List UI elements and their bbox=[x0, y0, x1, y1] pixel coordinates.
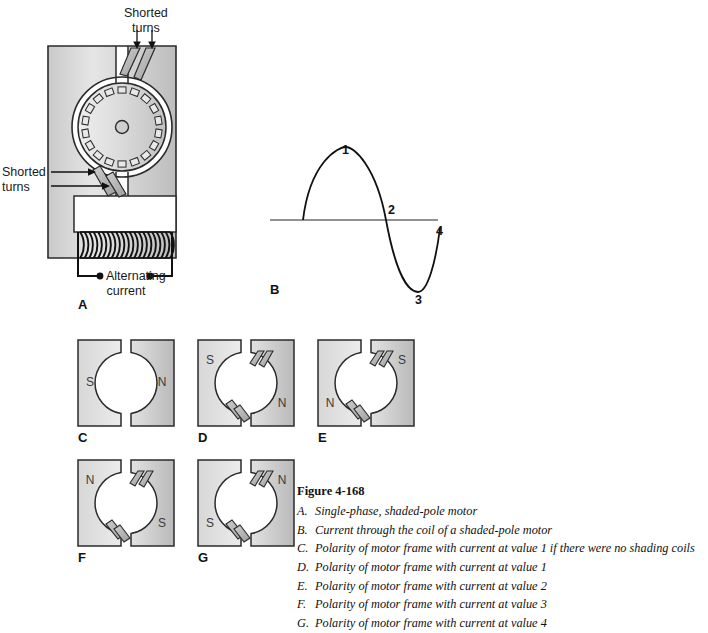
right-pole-label: N bbox=[278, 473, 287, 487]
caption-item-key: D. bbox=[297, 558, 310, 577]
frame-slot-2: NS bbox=[312, 336, 424, 440]
waveform-marker-4: 4 bbox=[436, 224, 443, 238]
figure-caption-list: A.Single-phase, shaded-pole motorB.Curre… bbox=[297, 502, 703, 633]
rotor-bar bbox=[82, 129, 89, 138]
caption-item: B.Current through the coil of a shaded-p… bbox=[297, 521, 703, 540]
caption-item-text: Polarity of motor frame with current at … bbox=[315, 558, 547, 577]
caption-item-key: A. bbox=[297, 502, 310, 521]
label-alternating-current-line2: current bbox=[106, 284, 146, 299]
caption-item-key: C. bbox=[297, 539, 310, 558]
caption-item: C.Polarity of motor frame with current a… bbox=[297, 539, 703, 558]
frame-slot-1: SN bbox=[192, 336, 304, 440]
rotor-bar bbox=[155, 129, 162, 138]
panel-letter-c: C bbox=[78, 430, 87, 445]
label-shorted-turns-top-line2: turns bbox=[124, 21, 168, 36]
coil-window bbox=[74, 196, 176, 232]
caption-item-text: Polarity of motor frame with current at … bbox=[315, 539, 695, 558]
label-alternating-current: Alternating current bbox=[106, 269, 146, 299]
waveform-marker-3: 3 bbox=[415, 293, 422, 307]
panel-letter-g: G bbox=[198, 550, 208, 565]
label-shorted-turns-top: Shorted turns bbox=[124, 6, 168, 36]
rotor-shaft bbox=[116, 121, 129, 134]
caption-item: D.Polarity of motor frame with current a… bbox=[297, 558, 703, 577]
waveform-marker-2: 2 bbox=[388, 203, 395, 217]
caption-item-text: Single-phase, shaded-pole motor bbox=[315, 502, 477, 521]
polarity-frame-drawing: NS bbox=[72, 456, 184, 560]
figure-caption-title: Figure 4-168 bbox=[297, 484, 703, 499]
figure-caption: Figure 4-168 A.Single-phase, shaded-pole… bbox=[297, 484, 703, 633]
caption-item-text: Current through the coil of a shaded-pol… bbox=[315, 521, 552, 540]
panel-a-motor: Shorted turns Shorted turns Alternating … bbox=[0, 0, 260, 320]
left-pole-label: S bbox=[86, 375, 94, 389]
rotor-bar bbox=[118, 87, 126, 93]
rotor-bar bbox=[155, 116, 162, 125]
right-pole-label: N bbox=[158, 375, 167, 389]
frame-panel-e: NS E bbox=[312, 336, 424, 440]
panel-letter-b: B bbox=[270, 282, 279, 297]
caption-item-key: E. bbox=[297, 577, 310, 596]
right-pole-label: S bbox=[398, 353, 406, 367]
frame-panel-g: SN G bbox=[192, 456, 304, 560]
caption-item-text: Polarity of motor frame with current at … bbox=[315, 614, 547, 633]
polarity-frame-drawing: SN bbox=[192, 456, 304, 560]
panel-letter-e: E bbox=[318, 430, 327, 445]
frame-slot-3: NS bbox=[72, 456, 184, 560]
rotor-bar bbox=[82, 116, 89, 125]
panel-letter-f: F bbox=[78, 550, 86, 565]
supply-terminal-left bbox=[97, 273, 104, 280]
left-pole-label: N bbox=[86, 473, 95, 487]
panel-b-drawing bbox=[258, 130, 468, 305]
left-pole-label: N bbox=[326, 396, 335, 410]
caption-item-key: B. bbox=[297, 521, 310, 540]
left-pole-label: S bbox=[206, 353, 214, 367]
caption-item: A.Single-phase, shaded-pole motor bbox=[297, 502, 703, 521]
caption-item: E.Polarity of motor frame with current a… bbox=[297, 577, 703, 596]
caption-item-key: G. bbox=[297, 614, 310, 633]
rotor-bar bbox=[118, 161, 126, 167]
frame-panel-c: SN C bbox=[72, 336, 184, 440]
right-pole-label: S bbox=[158, 516, 166, 530]
label-shorted-turns-left-line2: turns bbox=[2, 180, 46, 195]
left-pole-label: S bbox=[206, 516, 214, 530]
frame-slot-4: SN bbox=[192, 456, 304, 560]
panel-letter-a: A bbox=[78, 297, 87, 312]
panel-b-waveform: 1 2 3 4 B bbox=[258, 130, 468, 305]
caption-item-text: Polarity of motor frame with current at … bbox=[315, 577, 547, 596]
caption-item: G.Polarity of motor frame with current a… bbox=[297, 614, 703, 633]
caption-item-key: F. bbox=[297, 595, 310, 614]
label-shorted-turns-top-line1: Shorted bbox=[124, 6, 168, 21]
caption-item-text: Polarity of motor frame with current at … bbox=[315, 595, 547, 614]
caption-item: F.Polarity of motor frame with current a… bbox=[297, 595, 703, 614]
right-pole-label: N bbox=[278, 396, 287, 410]
frame-panel-f: NS F bbox=[72, 456, 184, 560]
polarity-frame-drawing: NS bbox=[312, 336, 424, 440]
label-alternating-current-line1: Alternating bbox=[106, 269, 146, 284]
polarity-frame-drawing: SN bbox=[72, 336, 184, 440]
rotor bbox=[78, 83, 166, 171]
polarity-frame-drawing: SN bbox=[192, 336, 304, 440]
label-shorted-turns-left-line1: Shorted bbox=[2, 165, 46, 180]
frame-panel-d: SN D bbox=[192, 336, 304, 440]
label-shorted-turns-left: Shorted turns bbox=[2, 165, 46, 195]
waveform-marker-1: 1 bbox=[342, 143, 349, 157]
panel-letter-d: D bbox=[198, 430, 207, 445]
frame-slot-0: SN bbox=[72, 336, 184, 440]
